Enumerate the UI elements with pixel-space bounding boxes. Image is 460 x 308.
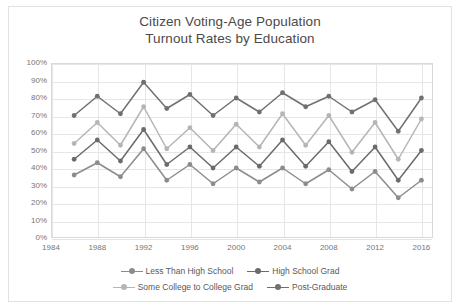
y-axis-tick-label: 60% — [31, 129, 47, 137]
data-point — [118, 174, 123, 179]
y-axis-tick-label: 50% — [31, 147, 47, 155]
chart-legend: Less Than High School High School Grad S… — [9, 263, 451, 297]
data-point — [188, 125, 193, 130]
data-point — [257, 145, 262, 150]
chart-title-line-1: Citizen Voting-Age Population — [9, 13, 451, 30]
data-point — [326, 113, 331, 118]
data-point — [164, 146, 169, 151]
data-point — [350, 169, 355, 174]
series-line — [74, 82, 421, 131]
data-point — [280, 90, 285, 95]
data-point — [234, 96, 239, 101]
data-point — [118, 111, 123, 116]
data-point — [280, 111, 285, 116]
series-layer — [51, 63, 433, 238]
data-point — [419, 178, 424, 183]
chart-title-line-2: Turnout Rates by Education — [9, 30, 451, 47]
data-point — [326, 167, 331, 172]
y-axis-tick-label: 40% — [31, 164, 47, 172]
data-point — [95, 120, 100, 125]
data-point — [234, 166, 239, 171]
data-point — [257, 110, 262, 115]
data-point — [257, 180, 262, 185]
x-axis-tick-label: 2008 — [320, 243, 338, 253]
data-point — [95, 160, 100, 165]
data-point — [164, 178, 169, 183]
y-axis-tick-label: 20% — [31, 199, 47, 207]
data-point — [419, 96, 424, 101]
legend-marker-icon — [267, 283, 289, 291]
legend-marker-icon — [121, 267, 143, 275]
data-point — [350, 150, 355, 155]
data-point — [373, 120, 378, 125]
series-line — [74, 130, 421, 181]
legend-label: Post-Graduate — [292, 282, 347, 292]
data-point — [396, 178, 401, 183]
series-line — [74, 107, 421, 160]
data-point — [419, 117, 424, 122]
legend-label: Some College to College Grad — [138, 282, 253, 292]
data-point — [72, 141, 77, 146]
x-axis-tick-label: 2000 — [227, 243, 245, 253]
x-axis-tick-label: 1988 — [88, 243, 106, 253]
data-point — [326, 139, 331, 144]
legend-row-1: Less Than High School High School Grad — [9, 263, 451, 279]
data-point — [141, 146, 146, 151]
data-point — [164, 106, 169, 111]
y-axis-tick-label: 70% — [31, 112, 47, 120]
y-axis-tick-label: 10% — [31, 217, 47, 225]
x-axis-tick-label: 2012 — [366, 243, 384, 253]
data-point — [373, 145, 378, 150]
legend-label: Less Than High School — [146, 266, 234, 276]
chart-container: Citizen Voting-Age Population Turnout Ra… — [8, 6, 452, 302]
data-point — [280, 138, 285, 143]
data-point — [164, 162, 169, 167]
data-point — [326, 94, 331, 99]
data-point — [141, 104, 146, 109]
x-axis-tick-label: 1984 — [42, 243, 60, 253]
data-point — [257, 164, 262, 169]
data-point — [396, 129, 401, 134]
legend-item-some-college-to-college-grad[interactable]: Some College to College Grad — [113, 282, 253, 292]
data-point — [373, 97, 378, 102]
legend-row-2: Some College to College Grad Post-Gradua… — [9, 279, 451, 295]
legend-marker-icon — [247, 267, 269, 275]
data-point — [188, 145, 193, 150]
data-point — [211, 148, 216, 153]
data-point — [396, 195, 401, 200]
data-point — [95, 138, 100, 143]
data-point — [72, 173, 77, 178]
gridline-horizontal — [52, 239, 432, 240]
data-point — [303, 143, 308, 148]
data-point — [350, 187, 355, 192]
x-axis-tick-label: 1996 — [181, 243, 199, 253]
data-point — [95, 94, 100, 99]
data-point — [396, 157, 401, 162]
data-point — [303, 181, 308, 186]
legend-item-high-school-grad[interactable]: High School Grad — [247, 266, 339, 276]
y-axis-tick-label: 80% — [31, 94, 47, 102]
data-point — [118, 159, 123, 164]
data-point — [280, 166, 285, 171]
x-axis-tick-label: 1992 — [135, 243, 153, 253]
data-point — [234, 122, 239, 127]
x-axis: 198419881992199620002004200820122016 — [51, 243, 433, 257]
legend-item-post-graduate[interactable]: Post-Graduate — [267, 282, 347, 292]
data-point — [211, 181, 216, 186]
data-point — [188, 92, 193, 97]
plot-area-wrapper — [51, 63, 433, 238]
data-point — [234, 145, 239, 150]
y-axis-tick-label: 0% — [35, 234, 47, 242]
y-axis: 100%90%80%70%60%50%40%30%20%10%0% — [9, 63, 47, 238]
data-point — [72, 113, 77, 118]
data-point — [350, 110, 355, 115]
data-point — [211, 166, 216, 171]
data-point — [141, 127, 146, 132]
data-point — [72, 157, 77, 162]
legend-item-less-than-high-school[interactable]: Less Than High School — [121, 266, 234, 276]
data-point — [211, 113, 216, 118]
data-point — [373, 169, 378, 174]
y-axis-tick-label: 100% — [27, 59, 47, 67]
y-axis-tick-label: 90% — [31, 77, 47, 85]
data-point — [188, 162, 193, 167]
